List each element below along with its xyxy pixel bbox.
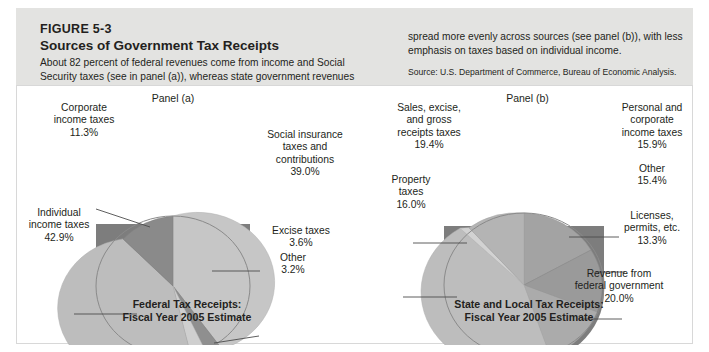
figure-header-band: FIGURE 5-3 Sources of Government Tax Rec… (16, 8, 693, 85)
panel-a-label-social-insurance: Social insurance taxes and contributions… (255, 129, 355, 179)
panel-b: Panel (b) (357, 86, 694, 345)
figure-title: Sources of Government Tax Receipts (40, 38, 370, 53)
panel-b-label-other: Other 15.4% (613, 163, 691, 188)
panel-a-label-other: Other 3.2% (257, 252, 329, 277)
figure-root: FIGURE 5-3 Sources of Government Tax Rec… (0, 0, 709, 352)
panel-b-label-personal-corporate-income: Personal and corporate income taxes 15.9… (609, 102, 695, 152)
header-right-column: spread more evenly across sources (see p… (408, 30, 708, 78)
figure-source: Source: U.S. Department of Commerce, Bur… (408, 67, 708, 78)
figure-description-right: spread more evenly across sources (see p… (408, 30, 708, 57)
panel-b-label-property-taxes: Property taxes 16.0% (373, 174, 449, 211)
panel-a-label-corporate-income-taxes: Corporate income taxes 11.3% (29, 102, 139, 139)
panel-a-label-excise-taxes: Excise taxes 3.6% (257, 225, 345, 250)
panel-b-label-sales-excise-gross: Sales, excise, and gross receipts taxes … (377, 102, 481, 152)
panel-b-label-licenses-permits: Licenses, permits, etc. 13.3% (609, 210, 695, 247)
chart-area: Panel (a) (16, 85, 693, 344)
figure-number: FIGURE 5-3 (40, 22, 370, 36)
panel-b-caption: State and Local Tax Receipts: Fiscal Yea… (389, 298, 669, 324)
panel-a-caption: Federal Tax Receipts: Fiscal Year 2005 E… (47, 298, 327, 324)
panel-a-label-individual-income-taxes: Individual income taxes 42.9% (9, 207, 109, 244)
panel-a: Panel (a) (17, 86, 357, 345)
